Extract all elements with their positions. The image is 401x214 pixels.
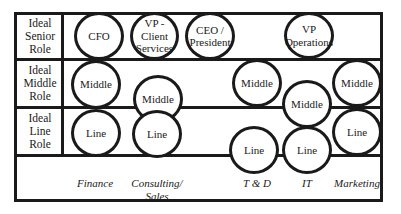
circle-label: VP bbox=[285, 23, 333, 36]
line-circle-consulting-sales: Line bbox=[132, 110, 182, 158]
line-circle-t-and-d: Line bbox=[229, 126, 279, 174]
circle-label: Services bbox=[136, 42, 173, 55]
dept-label-text: T & D bbox=[243, 177, 271, 189]
role-circle-ceo-president: CEO / President bbox=[185, 12, 235, 60]
line-circle-finance: Line bbox=[71, 109, 121, 157]
role-circle-vp-client-services: VP - Client Services bbox=[130, 12, 179, 60]
row-label-middle: Ideal Middle Role bbox=[17, 61, 63, 106]
role-circle-vp-operations: VP Operations bbox=[284, 12, 334, 59]
middle-circle-it: Middle bbox=[282, 80, 332, 128]
circle-label: President bbox=[190, 36, 231, 49]
circle-label: CFO bbox=[88, 30, 109, 43]
row-label-line: Role bbox=[17, 138, 63, 151]
circle-label: Line bbox=[147, 128, 167, 141]
row-label-line: Role bbox=[17, 90, 63, 103]
dept-label-text: IT bbox=[302, 177, 312, 189]
role-circle-cfo: CFO bbox=[74, 12, 124, 60]
circle-label: VP - bbox=[136, 17, 173, 30]
dept-label-text: Finance bbox=[77, 177, 113, 189]
middle-circle-marketing: Middle bbox=[332, 59, 382, 107]
circle-label: Middle bbox=[142, 93, 174, 106]
dept-label-text: Consulting/ bbox=[122, 177, 192, 190]
dept-label-text: Sales bbox=[122, 190, 192, 203]
row-label-line: Role bbox=[17, 43, 63, 56]
circle-label: Middle bbox=[291, 98, 323, 111]
circle-label: Middle bbox=[341, 77, 373, 90]
row-label-line: Senior bbox=[17, 30, 63, 43]
row-label-senior: Ideal Senior Role bbox=[17, 15, 63, 58]
row-label-line: Line bbox=[17, 125, 63, 138]
circle-label: Operations bbox=[285, 36, 333, 49]
row-label-line: Ideal bbox=[17, 64, 63, 77]
line-circle-marketing: Line bbox=[332, 108, 382, 156]
circle-label: Middle bbox=[241, 77, 273, 90]
row-label-line: Ideal bbox=[17, 17, 63, 30]
dept-label-finance: Finance bbox=[60, 177, 130, 190]
row-label-line: Middle bbox=[17, 77, 63, 90]
circle-label: Client bbox=[136, 30, 173, 43]
line-circle-it: Line bbox=[282, 126, 332, 174]
row-label-line: Ideal Line Role bbox=[17, 109, 63, 154]
row-label-line: Ideal bbox=[17, 112, 63, 125]
circle-label: Middle bbox=[80, 78, 112, 91]
senior-row-divider bbox=[14, 58, 383, 61]
circle-label: Line bbox=[347, 126, 367, 139]
circle-label: Line bbox=[244, 144, 264, 157]
circle-label: Line bbox=[86, 127, 106, 140]
dept-label-consulting-sales: Consulting/ Sales bbox=[122, 177, 192, 203]
dept-label-marketing: Marketing bbox=[322, 177, 392, 190]
dept-label-text: Marketing bbox=[334, 177, 380, 189]
middle-circle-t-and-d: Middle bbox=[232, 59, 282, 107]
circle-label: Line bbox=[297, 144, 317, 157]
circle-label: CEO / bbox=[190, 24, 231, 37]
middle-circle-finance: Middle bbox=[71, 60, 121, 109]
